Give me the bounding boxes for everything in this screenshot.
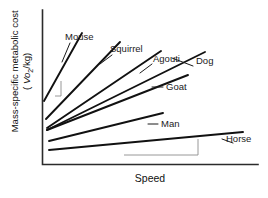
y-axis-title-line1: Mass-specific metabolic cost: [9, 5, 21, 137]
plot-canvas: Mouse Squirrel Agouti Dog Goat Man Horse: [0, 0, 268, 198]
data-line-agouti: [47, 51, 161, 128]
y-axis-unit-o: o: [21, 73, 32, 78]
series-label-horse: Horse: [226, 133, 251, 144]
series-label-goat: Goat: [166, 81, 187, 92]
leader-line-mouse: [62, 43, 70, 62]
series-label-agouti: Agouti: [153, 53, 180, 64]
y-axis-unit-subscript: 2: [27, 69, 34, 73]
series-label-squirrel: Squirrel: [110, 43, 143, 54]
chart-figure: Mouse Squirrel Agouti Dog Goat Man Horse…: [0, 0, 268, 198]
y-axis-title: Mass-specific metabolic cost ( Vo2/kg): [9, 5, 36, 137]
leader-line-agouti: [140, 64, 152, 73]
y-axis-unit-prefix: (: [21, 84, 32, 90]
series-label-man: Man: [161, 118, 179, 129]
data-line-squirrel: [46, 42, 120, 119]
mouse-slope-triangle-icon: [55, 81, 61, 96]
y-axis-unit-suffix: /kg): [21, 53, 32, 69]
x-axis-title: Speed: [42, 172, 258, 184]
y-axis-title-line2: ( Vo2/kg): [21, 5, 36, 137]
data-line-man: [49, 113, 163, 141]
data-line-mouse: [44, 33, 82, 101]
series-label-dog: Dog: [196, 55, 213, 66]
y-axis-unit-v: V: [21, 78, 32, 84]
series-label-mouse: Mouse: [65, 31, 94, 42]
